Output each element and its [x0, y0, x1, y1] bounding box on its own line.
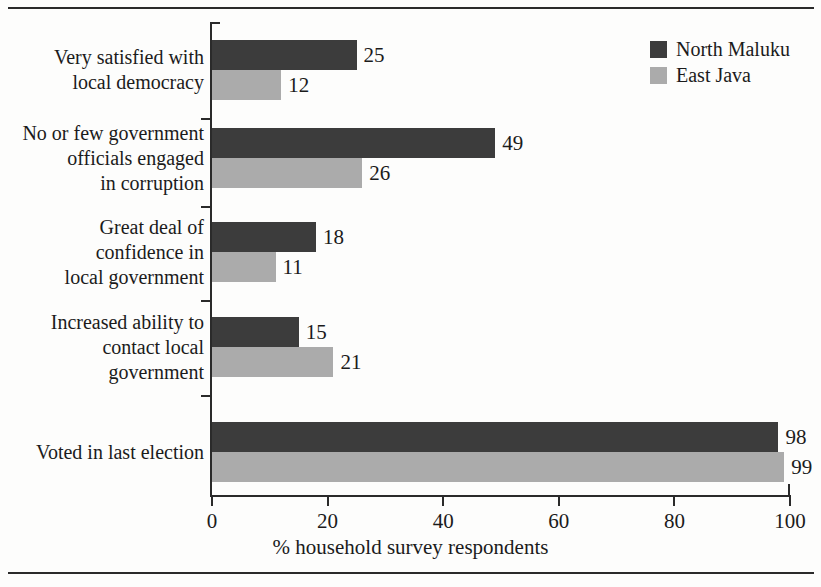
- category-label-line: in corruption: [0, 171, 204, 196]
- bar-0-1: [212, 70, 281, 100]
- category-label-4: Voted in last election: [0, 440, 204, 465]
- bar-value-label: 99: [791, 457, 812, 478]
- bar-4-1: [212, 452, 784, 482]
- x-tick-label-40: 40: [433, 511, 454, 532]
- x-tick-40: [442, 495, 444, 506]
- bar-value-label: 49: [502, 133, 523, 154]
- bar-2-1: [212, 252, 276, 282]
- x-tick-60: [558, 495, 560, 506]
- legend: North MalukuEast Java: [650, 36, 790, 88]
- category-label-line: Increased ability to: [0, 310, 204, 335]
- plot-area: 25124926181115219899 020406080100: [212, 22, 790, 495]
- x-tick-label-0: 0: [207, 511, 218, 532]
- x-axis-title: % household survey respondents: [0, 535, 821, 560]
- bar-value-label: 26: [369, 163, 390, 184]
- x-tick-label-80: 80: [664, 511, 685, 532]
- bar-1-0: [212, 128, 495, 158]
- bar-value-label: 15: [306, 322, 327, 343]
- bar-2-0: [212, 222, 316, 252]
- legend-label: North Maluku: [676, 39, 790, 59]
- category-label-line: confidence in: [0, 240, 204, 265]
- category-label-line: local government: [0, 265, 204, 290]
- category-separator-3: [201, 395, 212, 397]
- bar-value-label: 21: [340, 352, 361, 373]
- bar-value-label: 12: [288, 75, 309, 96]
- bar-value-label: 25: [364, 45, 385, 66]
- category-label-line: local democracy: [0, 70, 204, 95]
- figure-bottom-rule: [8, 572, 814, 574]
- x-tick-0: [211, 495, 213, 506]
- category-separator-0: [201, 118, 212, 120]
- y-axis-top-cap: [210, 22, 220, 24]
- legend-swatch-icon: [650, 41, 667, 58]
- category-label-line: officials engaged: [0, 146, 204, 171]
- category-label-line: No or few government: [0, 121, 204, 146]
- x-tick-label-60: 60: [548, 511, 569, 532]
- bar-3-0: [212, 317, 299, 347]
- category-label-line: Very satisfied with: [0, 45, 204, 70]
- bar-value-label: 18: [323, 227, 344, 248]
- category-separator-2: [201, 300, 212, 302]
- bar-4-0: [212, 422, 778, 452]
- category-label-line: Voted in last election: [0, 440, 204, 465]
- x-tick-100: [789, 495, 791, 506]
- figure-top-rule: [8, 7, 814, 9]
- category-separator-1: [201, 206, 212, 208]
- legend-swatch-icon: [650, 67, 667, 84]
- x-tick-label-20: 20: [317, 511, 338, 532]
- x-tick-20: [327, 495, 329, 506]
- category-label-0: Very satisfied withlocal democracy: [0, 45, 204, 95]
- category-label-3: Increased ability tocontact localgovernm…: [0, 310, 204, 385]
- category-label-line: contact local: [0, 335, 204, 360]
- bar-3-1: [212, 347, 333, 377]
- bar-value-label: 98: [785, 427, 806, 448]
- legend-item-1[interactable]: East Java: [650, 62, 790, 88]
- category-label-line: government: [0, 360, 204, 385]
- x-tick-80: [673, 495, 675, 506]
- legend-label: East Java: [676, 65, 751, 85]
- bar-value-label: 11: [283, 257, 303, 278]
- x-tick-label-100: 100: [774, 511, 806, 532]
- category-label-line: Great deal of: [0, 215, 204, 240]
- bar-1-1: [212, 158, 362, 188]
- bar-0-0: [212, 40, 357, 70]
- category-label-1: No or few governmentofficials engagedin …: [0, 121, 204, 196]
- x-axis-line: [210, 495, 790, 497]
- legend-item-0[interactable]: North Maluku: [650, 36, 790, 62]
- chart-figure: Very satisfied withlocal democracyNo or …: [0, 0, 821, 587]
- category-label-2: Great deal ofconfidence inlocal governme…: [0, 215, 204, 290]
